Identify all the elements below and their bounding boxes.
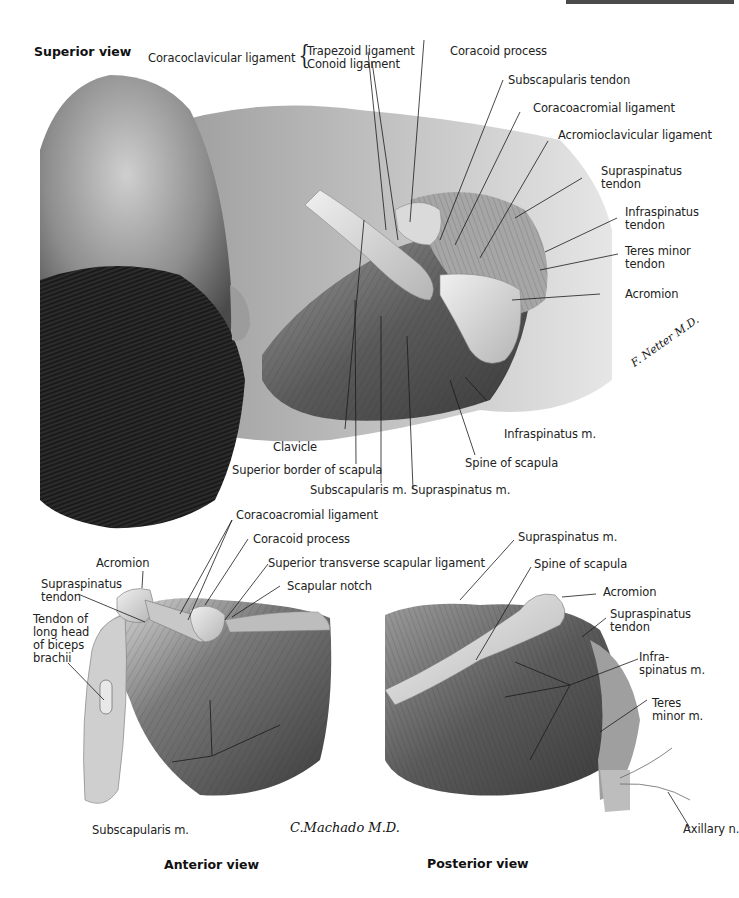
- label-acromioclavicular-ligament: Acromioclavicular ligament: [558, 129, 712, 142]
- label-acromion-post: Acromion: [603, 586, 656, 599]
- label-tendon-long-head-biceps: Tendon of long head of biceps brachii: [33, 613, 89, 665]
- label-superior-border-of-scapula: Superior border of scapula: [232, 464, 382, 477]
- label-infraspinatus-tendon: Infraspinatus tendon: [625, 206, 699, 232]
- label-spine-of-scapula-sup: Spine of scapula: [465, 457, 558, 470]
- label-axillary-n: Axillary n.: [683, 823, 739, 836]
- panel-title-superior: Superior view: [34, 44, 131, 59]
- label-acromion-sup: Acromion: [625, 288, 678, 301]
- label-supraspinatus-m-post: Supraspinatus m.: [518, 531, 617, 544]
- signature-machado: C.Machado M.D.: [290, 820, 400, 835]
- label-subscapularis-tendon: Subscapularis tendon: [508, 74, 630, 87]
- label-coracoid-process: Coracoid process: [450, 45, 547, 58]
- label-teres-minor-tendon: Teres minor tendon: [625, 245, 691, 271]
- label-acromion-ant: Acromion: [96, 557, 149, 570]
- label-supraspinatus-tendon-sup: Supraspinatus tendon: [601, 165, 682, 191]
- label-clavicle: Clavicle: [273, 441, 317, 454]
- label-infraspinatus-m-post: Infra- spinatus m.: [639, 651, 705, 677]
- label-subscapularis-m-ant: Subscapularis m.: [92, 824, 189, 837]
- label-infraspinatus-m: Infraspinatus m.: [504, 428, 596, 441]
- label-superior-transverse-scapular-ligament: Superior transverse scapular ligament: [268, 557, 485, 570]
- label-coracoclavicular-ligament: Coracoclavicular ligament: [148, 52, 295, 65]
- label-coracoacromial-ligament: Coracoacromial ligament: [533, 102, 675, 115]
- panel-title-anterior: Anterior view: [164, 857, 259, 872]
- label-spine-of-scapula-post: Spine of scapula: [534, 558, 627, 571]
- label-teres-minor-m: Teres minor m.: [652, 697, 703, 723]
- label-subscapularis-m-sup: Subscapularis m.: [310, 484, 407, 497]
- label-conoid-ligament: Conoid ligament: [307, 58, 400, 71]
- label-supraspinatus-tendon-post: Supraspinatus tendon: [610, 608, 691, 634]
- label-coracoid-process-ant: Coracoid process: [253, 533, 350, 546]
- panel-title-posterior: Posterior view: [427, 856, 529, 871]
- label-supraspinatus-tendon-ant: Supraspinatus tendon: [41, 578, 122, 604]
- label-coracoacromial-ligament-ant: Coracoacromial ligament: [236, 509, 378, 522]
- label-scapular-notch: Scapular notch: [287, 580, 372, 593]
- label-supraspinatus-m-sup: Supraspinatus m.: [411, 484, 510, 497]
